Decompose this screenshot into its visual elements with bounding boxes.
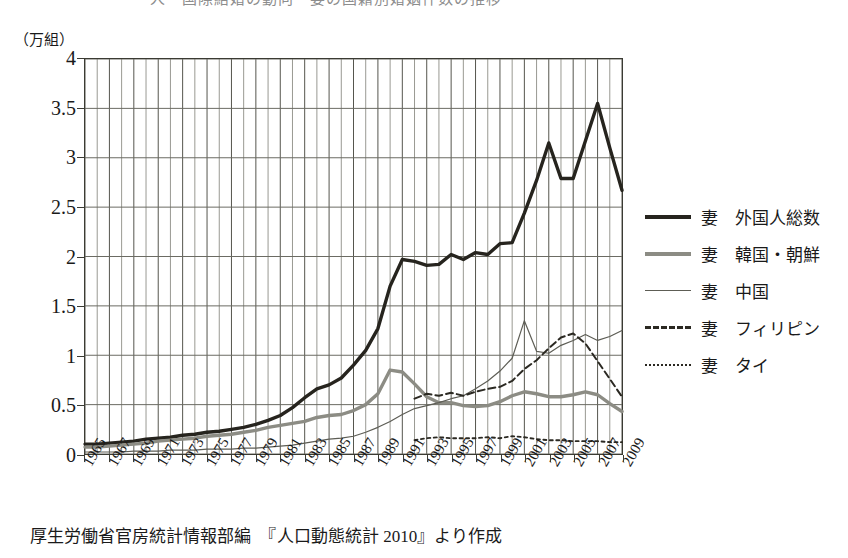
x-tick-mark	[133, 455, 134, 462]
y-tick-label: 2.5	[51, 197, 76, 217]
x-axis-tick-labels: 1965196719691971197319751977197919811983…	[0, 455, 848, 517]
x-tick-mark	[280, 455, 281, 462]
x-tick-mark	[256, 455, 257, 462]
legend-item-korea: 妻 韓国・朝鮮	[645, 235, 845, 272]
legend-label: 妻 フィリピン	[701, 315, 820, 340]
y-tick-mark	[77, 405, 84, 406]
x-tick-mark	[84, 455, 85, 462]
y-tick-label: 3	[66, 147, 76, 167]
x-tick-mark	[354, 455, 355, 462]
x-tick-mark	[623, 455, 624, 462]
y-tick-mark	[77, 455, 84, 456]
y-tick-label: 4	[66, 48, 76, 68]
legend-swatch-china-icon	[645, 284, 691, 298]
page-title: 人 国際結婚の動向 妻の国籍別婚姻件数の推移	[150, 0, 502, 8]
x-tick-mark	[207, 455, 208, 462]
x-tick-mark	[158, 455, 159, 462]
legend-swatch-total-icon	[645, 210, 691, 224]
x-tick-mark	[378, 455, 379, 462]
chart-plot-area	[84, 58, 623, 455]
x-tick-mark	[452, 455, 453, 462]
y-tick-label: 1	[66, 346, 76, 366]
legend-item-total: 妻 外国人総数	[645, 198, 845, 235]
x-tick-mark	[574, 455, 575, 462]
chart-series-layer	[85, 59, 622, 454]
x-tick-mark	[550, 455, 551, 462]
x-tick-mark	[403, 455, 404, 462]
series-line-korea	[85, 370, 622, 447]
x-tick-mark	[525, 455, 526, 462]
series-line-china	[85, 321, 622, 452]
y-tick-mark	[77, 257, 84, 258]
page-title-strip: 人 国際結婚の動向 妻の国籍別婚姻件数の推移	[0, 0, 848, 13]
y-axis-unit-label: （万組）	[14, 28, 74, 49]
y-tick-mark	[77, 306, 84, 307]
x-tick-mark	[305, 455, 306, 462]
y-tick-label: 1.5	[51, 296, 76, 316]
x-tick-mark	[599, 455, 600, 462]
y-tick-label: 2	[66, 247, 76, 267]
y-tick-mark	[77, 58, 84, 59]
legend-label: 妻 タイ	[701, 352, 769, 377]
x-tick-mark	[182, 455, 183, 462]
legend-label: 妻 外国人総数	[701, 204, 820, 229]
x-tick-mark	[329, 455, 330, 462]
x-tick-mark	[109, 455, 110, 462]
legend-item-thai: 妻 タイ	[645, 346, 845, 383]
y-axis-tick-labels: 00.511.522.533.54	[0, 58, 76, 455]
y-tick-mark	[77, 356, 84, 357]
legend-swatch-phil-icon	[645, 321, 691, 335]
source-caption: 厚生労働省官房統計情報部編 『人口動態統計 2010』より作成	[30, 522, 502, 547]
series-line-phil	[415, 334, 622, 399]
x-tick-label: 2009	[619, 435, 649, 469]
x-tick-mark	[427, 455, 428, 462]
legend-swatch-thai-icon	[645, 358, 691, 372]
legend-label: 妻 中国	[701, 278, 769, 303]
y-tick-label: 3.5	[51, 98, 76, 118]
y-tick-label: 0.5	[51, 395, 76, 415]
y-tick-mark	[77, 157, 84, 158]
legend-label: 妻 韓国・朝鮮	[701, 241, 820, 266]
y-tick-mark	[77, 207, 84, 208]
x-tick-mark	[231, 455, 232, 462]
x-tick-mark	[501, 455, 502, 462]
legend-swatch-korea-icon	[645, 247, 691, 261]
series-line-total	[85, 103, 622, 444]
legend-item-china: 妻 中国	[645, 272, 845, 309]
x-tick-mark	[476, 455, 477, 462]
legend-item-phil: 妻 フィリピン	[645, 309, 845, 346]
chart-legend: 妻 外国人総数妻 韓国・朝鮮妻 中国妻 フィリピン妻 タイ	[645, 198, 845, 383]
y-tick-mark	[77, 108, 84, 109]
